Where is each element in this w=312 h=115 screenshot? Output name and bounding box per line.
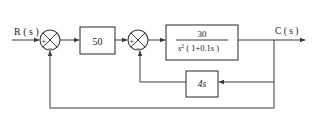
input-label: R ( s ) [14,26,39,38]
plant-block: 30 s2 ( 1+0.1s ) [166,25,238,60]
summing-junction-2: + − [128,30,148,53]
sum2-plus-sign: + [130,37,135,46]
plant-numerator: 30 [198,29,208,39]
gain-block: 50 [80,27,115,54]
gain-value: 50 [93,36,103,47]
block-diagram: R ( s ) + − 50 + − 30 s2 ( 1+0.1s ) C ( … [0,0,312,115]
output-label: C ( s ) [275,26,299,37]
sum1-plus-sign: + [42,37,47,46]
feedback-block: 4s [186,71,218,97]
input-signal: R ( s ) [12,26,39,40]
plant-denominator: s2 ( 1+0.1s ) [178,43,219,54]
feedback-value: 4s [198,79,207,89]
outer-feedback-path [50,51,274,108]
summing-junction-1: + − [40,30,60,53]
